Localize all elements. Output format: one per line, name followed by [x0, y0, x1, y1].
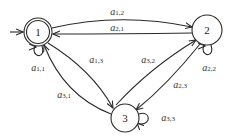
edge-label-a13: a1,3	[89, 54, 103, 66]
edge-label-a31: a3,1	[57, 89, 71, 101]
edge-label-a21: a2,1	[110, 22, 124, 34]
edge-label-a23: a2,3	[173, 79, 187, 91]
edge-label-a11: a1,1	[31, 62, 45, 74]
self-loop-1	[34, 46, 43, 56]
node-1: 1	[24, 18, 52, 46]
edge-2-to-1	[53, 33, 193, 34]
node-1-label: 1	[35, 26, 41, 38]
node-2: 2	[192, 15, 222, 45]
edge-label-a12: a1,2	[110, 6, 124, 18]
state-diagram: 1 2 3 a1,2 a2,1 a1,1 a1,3 a3,1 a3,2 a2,3…	[0, 0, 234, 137]
node-3-label: 3	[122, 112, 128, 124]
node-3: 3	[111, 104, 139, 132]
edge-label-a22: a2,2	[202, 62, 216, 74]
edge-3-to-1	[44, 45, 111, 114]
edge-3-to-2	[116, 40, 196, 105]
node-2-label: 2	[204, 24, 210, 36]
self-loop-2	[203, 45, 212, 55]
edge-label-a32: a3,2	[141, 54, 155, 66]
edge-label-a33: a3,3	[161, 112, 175, 124]
